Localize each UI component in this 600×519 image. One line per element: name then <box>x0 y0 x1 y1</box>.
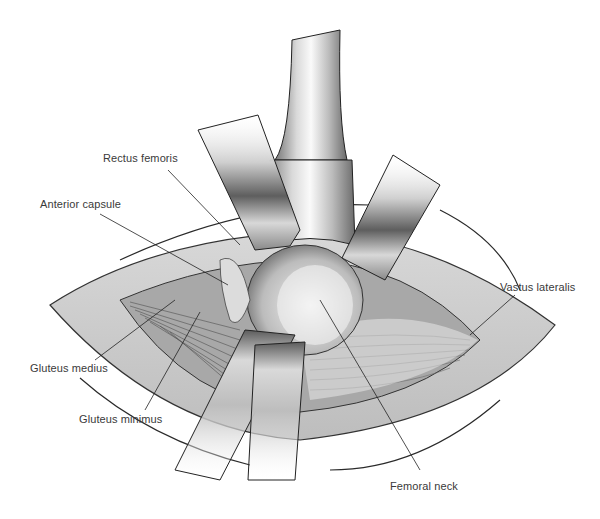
label-femoral-neck: Femoral neck <box>390 480 458 492</box>
label-gluteus-minimus: Gluteus minimus <box>79 413 162 425</box>
label-anterior-capsule: Anterior capsule <box>40 198 121 210</box>
retractor-lower-center <box>248 342 305 480</box>
retractor-top <box>275 30 347 160</box>
surgical-illustration <box>0 0 600 519</box>
label-rectus-femoris: Rectus femoris <box>103 152 178 164</box>
label-vastus-lateralis: Vastus lateralis <box>500 281 575 293</box>
label-gluteus-medius: Gluteus medius <box>30 362 108 374</box>
